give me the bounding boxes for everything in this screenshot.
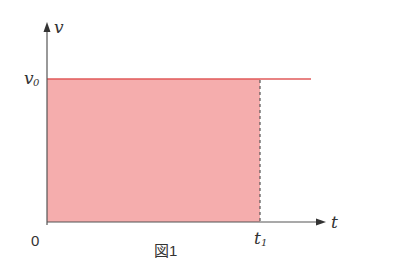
y-axis-arrow-icon <box>44 22 51 32</box>
shaded-area <box>47 79 260 222</box>
v0-subscript: 0 <box>33 77 40 88</box>
origin-label: 0 <box>31 232 39 249</box>
y-axis-label: v <box>54 17 64 37</box>
t1-label: t <box>254 228 261 248</box>
velocity-time-diagram: v t v 0 t 1 0 図1 <box>0 0 395 277</box>
t1-subscript: 1 <box>261 237 267 248</box>
x-axis-label: t <box>331 212 338 232</box>
figure-caption: 図1 <box>154 242 177 259</box>
x-axis-arrow-icon <box>316 219 326 226</box>
